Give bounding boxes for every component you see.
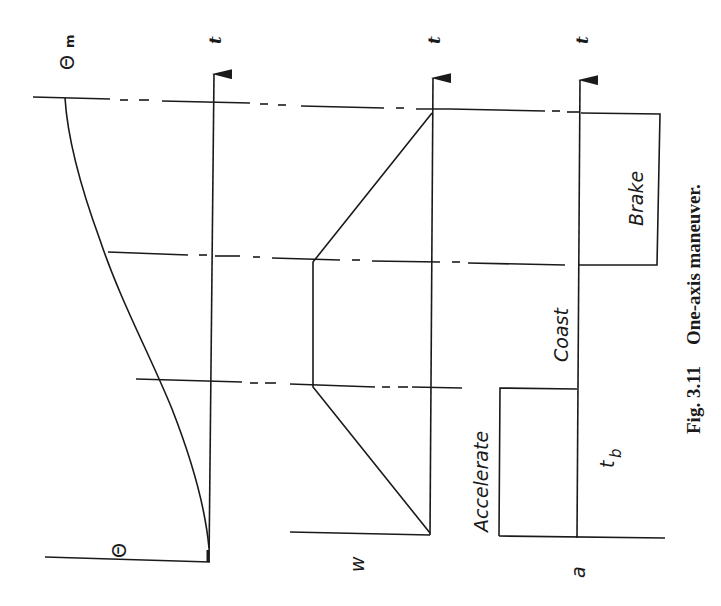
labels: Θ m t t t Θ w a Accelerate Coast Brake t…: [56, 34, 704, 578]
burn-time-subscript: b: [607, 448, 625, 458]
theta-time-label: t: [205, 36, 225, 44]
brake-label: Brake: [625, 171, 647, 226]
theta-axis-label: Θ: [108, 543, 130, 558]
accel-baseline: [499, 536, 665, 538]
theta-max-label: Θ: [56, 55, 78, 70]
accelerate-label: Accelerate: [470, 431, 492, 534]
brake-pulse: [578, 113, 660, 265]
omega-trapezoid: [313, 113, 432, 533]
omega-axis-label: w: [346, 556, 368, 572]
phase-boundary-coast-end: [108, 252, 565, 265]
omega-time-axis: [430, 78, 433, 535]
figure-caption-text: One-axis maneuver.: [683, 184, 704, 345]
omega-baseline: [290, 532, 430, 535]
theta-time-axis: [209, 74, 214, 562]
accel-time-axis: [577, 80, 580, 538]
coast-label: Coast: [550, 307, 572, 362]
theta-max-subscript: m: [62, 34, 77, 48]
burn-time-label: t: [596, 459, 618, 468]
omega-time-label: t: [424, 36, 444, 44]
phase-boundary-accel-end: [136, 379, 462, 388]
phase-boundary-end: [33, 97, 580, 112]
one-axis-maneuver-figure: Θ m t t t Θ w a Accelerate Coast Brake t…: [0, 0, 721, 606]
theta-panel: [45, 74, 214, 562]
accelerate-pulse: [499, 388, 577, 536]
accel-panel: [499, 80, 665, 538]
figure-caption-number: Fig. 3.11: [683, 366, 704, 434]
accel-time-label: t: [572, 36, 592, 44]
accel-axis-label: a: [567, 566, 589, 578]
theta-curve: [65, 98, 209, 548]
omega-panel: [290, 78, 433, 535]
